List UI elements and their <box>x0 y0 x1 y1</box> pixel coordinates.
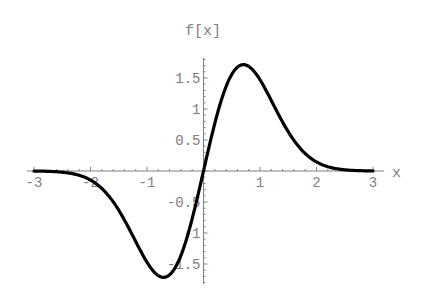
x-tick-label: 2 <box>312 175 320 191</box>
x-axis-label: x <box>392 165 401 182</box>
x-tick-label: -3 <box>26 175 43 191</box>
function-plot: -3-2-1123-1.5-1-0.50.511.5 x f[x] <box>0 0 426 304</box>
tick-labels: -3-2-1123-1.5-1-0.50.511.5 <box>26 71 378 273</box>
x-tick-label: 1 <box>256 175 264 191</box>
x-tick-label: 3 <box>369 175 377 191</box>
y-axis-label: f[x] <box>185 23 221 40</box>
y-tick-label: 1.5 <box>175 71 200 87</box>
y-tick-label: 1 <box>192 102 200 118</box>
y-tick-label: 0.5 <box>175 133 200 149</box>
x-tick-label: -1 <box>139 175 156 191</box>
